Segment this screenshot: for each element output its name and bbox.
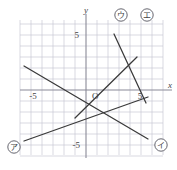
marker-i[interactable]: イ <box>155 139 167 151</box>
x-tick-label-pos5: 5 <box>138 91 143 101</box>
figure-background <box>0 0 177 170</box>
y-tick-label-neg5: -5 <box>73 140 81 150</box>
marker-a-label: ア <box>10 143 18 152</box>
origin-label: O <box>92 91 99 101</box>
marker-a[interactable]: ア <box>8 141 20 153</box>
marker-u-label: ウ <box>117 11 125 20</box>
y-tick-label-pos5: 5 <box>75 30 80 40</box>
y-axis-label: y <box>83 5 88 15</box>
coordinate-plane-figure: ウ エ ア イ y x O -5 5 5 -5 <box>0 0 177 170</box>
marker-e-label: エ <box>143 11 151 20</box>
marker-u[interactable]: ウ <box>115 9 127 21</box>
marker-i-label: イ <box>157 141 165 150</box>
graph-svg: ウ エ ア イ y x O -5 5 5 -5 <box>0 0 177 170</box>
marker-e[interactable]: エ <box>141 9 153 21</box>
x-axis-label: x <box>167 80 172 90</box>
x-tick-label-neg5: -5 <box>29 91 37 101</box>
